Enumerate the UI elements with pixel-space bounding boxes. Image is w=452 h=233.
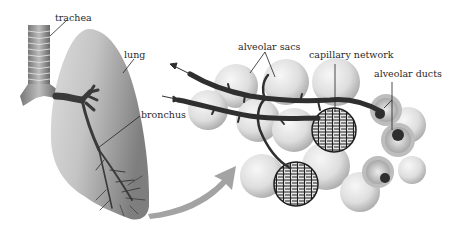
label-alveolar-sacs: alveolar sacs <box>238 41 301 52</box>
label-capillary-network: capillary network <box>309 49 394 60</box>
label-lung: lung <box>124 49 145 60</box>
zoom-arrow <box>148 166 236 219</box>
airflow-arrows <box>162 63 188 102</box>
capillary-network-lower <box>274 162 318 206</box>
label-trachea: trachea <box>55 12 92 23</box>
label-bronchus: bronchus <box>141 109 186 120</box>
respiratory-diagram: trachea lung bronchus alveolar sacs capi… <box>0 0 452 233</box>
label-alveolar-ducts: alveolar ducts <box>374 68 442 79</box>
trachea-illustration <box>20 25 58 106</box>
capillary-network-upper <box>312 108 356 152</box>
